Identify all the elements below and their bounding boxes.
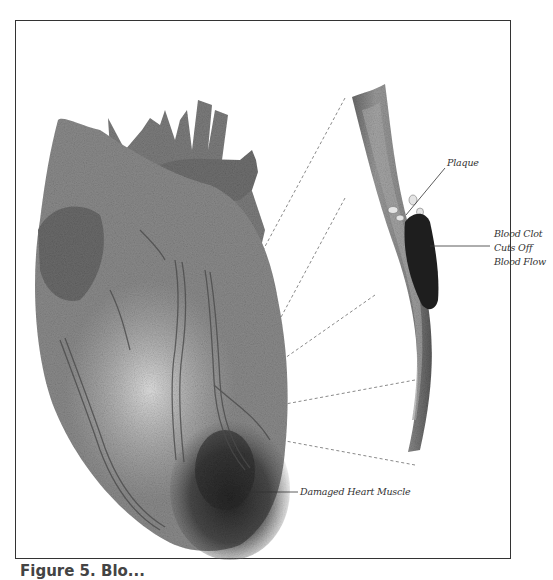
figure-caption: Figure 5. Blo... (20, 562, 145, 580)
label-damaged-heart-muscle: Damaged Heart Muscle (300, 485, 410, 499)
label-blood-clot: Blood Clot Cuts Off Blood Flow (494, 227, 546, 269)
label-plaque: Plaque (447, 156, 479, 170)
